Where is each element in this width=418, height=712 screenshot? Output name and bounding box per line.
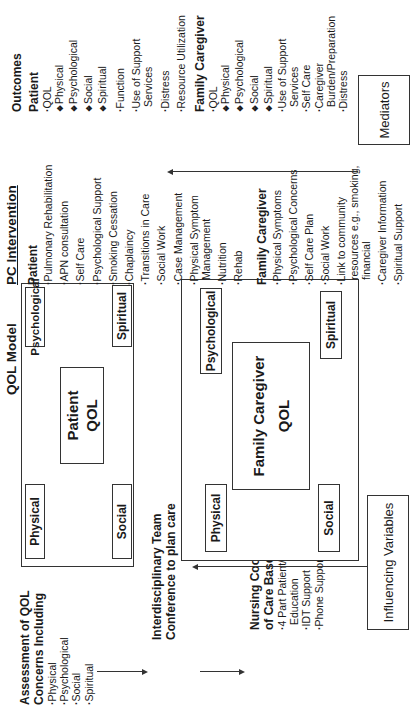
diamond-bullet-icon [82,104,94,112]
pc-patient-heading: Patient [26,160,40,285]
bullet-icon [58,702,70,706]
arrow-down-icon [200,671,240,672]
assessment-block: Assessment of QOL Concerns Including Phy… [18,565,95,705]
list-item: Spiritual [83,565,95,705]
family-psychological-box: Psychological [200,288,222,374]
bullet-icon [300,627,312,631]
list-item: QOL [41,0,53,112]
bullet-icon [276,627,288,631]
list-item: Psychological [233,0,247,112]
assessment-list: Physical Psychological Social Spiritual [46,565,95,705]
list-item: Spiritual [262,0,276,112]
outcomes-column: Outcomes Patient QOL Physical Psychologi… [10,0,349,112]
list-item: Physical [219,0,233,112]
mediators-box: Mediators [358,75,410,145]
arrow-up-icon [172,171,358,172]
list-item: Social [82,0,96,112]
assessment-title-line1: Assessment of QOL [18,565,32,705]
list-item: Nutrition [216,160,228,285]
list-item: Chaplaincy [123,160,135,285]
list-item: Physical [46,565,58,705]
list-item: Physical Symptom Management [188,160,212,285]
list-item: Rehab [232,160,244,285]
list-item: Physical Symptoms [271,160,283,285]
list-item: Caregiver Burden/Preparation [313,0,337,112]
outcomes-title: Outcomes [10,0,24,112]
bullet-icon [46,702,58,706]
outcomes-family-list: QOL Physical Psychological Social Spirit… [207,0,349,112]
pc-intervention-column: PC Intervention Patient Pulmonary Rehabi… [4,160,408,285]
patient-physical-box: Physical [25,484,45,559]
family-physical-box: Physical [205,484,227,552]
palliative-care-framework-diagram: Assessment of QOL Concerns Including Phy… [0,0,418,712]
list-item: Spiritual [96,0,110,112]
outcomes-patient-heading: Patient [27,0,41,112]
list-item: Pulmonary Rehabilitation [42,160,54,285]
list-item: Case Management [172,160,184,285]
list-item: Link to community resources e.g., smokin… [335,160,372,285]
list-item: Physical [53,0,67,112]
assessment-title-line2: Concerns Including [32,565,46,705]
pc-patient-list: Pulmonary Rehabilitation APN consultatio… [42,160,245,285]
patient-qol-center: Patient QOL [60,367,104,464]
list-item: Social Work [319,160,331,285]
mediators-label: Mediators [377,81,392,138]
list-item: Self Care Plan [303,160,315,285]
diamond-bullet-icon [53,104,65,112]
list-item: Use of Support Services [276,0,300,112]
list-item: Distress [337,0,349,112]
bullet-icon [83,702,95,706]
list-item: Function [114,0,126,112]
list-item: APN consultation [58,160,70,285]
diamond-bullet-icon [262,104,274,112]
bullet-icon [70,702,82,706]
diamond-bullet-icon [233,104,245,112]
qol-model-title: QOL Model [4,323,20,395]
list-item: Social [70,565,82,705]
list-item: Distress [159,0,171,112]
pc-family-heading: Family Caregiver [255,160,269,285]
list-item: QOL [207,0,219,112]
family-social-box: Social [318,484,340,552]
list-item: Social Work [155,160,167,285]
idt-block: Interdisciplinary Team Conference to pla… [150,480,178,640]
diamond-bullet-icon [248,104,260,112]
idt-line2: Conference to plan care [164,480,178,640]
arrow-up-icon [197,566,367,567]
list-item: Psychological Support [91,160,103,285]
list-item: Spiritual Support [392,160,404,285]
idt-line1: Interdisciplinary Team [150,480,164,640]
list-item: Smoking Cessation [107,160,119,285]
list-item: Self Care [74,160,86,285]
list-item: Transitions in Care [139,160,151,285]
outcomes-patient-list: QOL Physical Psychological Social Spirit… [41,0,187,112]
influencing-variables-label: Influencing Variables [381,503,396,623]
family-spiritual-box: Spiritual [320,291,342,359]
pc-intervention-title: PC Intervention [4,160,20,285]
influencing-variables-box: Influencing Variables [367,495,409,630]
diamond-bullet-icon [67,104,79,112]
list-item: Use of Support Services [130,0,154,112]
bullet-icon [313,627,325,631]
outcomes-family-heading: Family Caregiver [193,0,207,112]
list-item: Psychological [67,0,81,112]
list-item: Psychological Concerns [287,160,299,285]
diamond-bullet-icon [219,104,231,112]
list-item: Social [248,0,262,112]
list-item: Resource Utilization [175,0,187,112]
patient-psychological-box: Psychological [25,287,45,347]
list-item: Psychological [58,565,70,705]
family-qol-center: Family Caregiver QOL [232,342,310,490]
pc-family-list: Physical Symptoms Psychological Concerns… [271,160,405,285]
arrow-down-icon [97,671,143,672]
patient-social-box: Social [112,484,132,559]
diamond-bullet-icon [96,104,108,112]
patient-spiritual-box: Spiritual [112,285,132,347]
list-item: Self Care [300,0,312,112]
list-item: Caregiver Information [376,160,388,285]
